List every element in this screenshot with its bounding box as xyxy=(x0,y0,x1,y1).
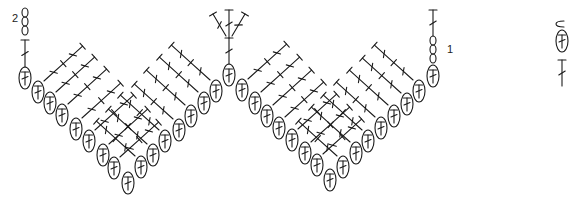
double-crochet-icon xyxy=(273,85,295,105)
dc-in-loop-icon xyxy=(273,117,285,139)
double-crochet-icon xyxy=(429,10,437,36)
double-crochet-icon xyxy=(232,12,248,36)
double-crochet-icon xyxy=(120,137,142,157)
double-crochet-icon xyxy=(309,104,331,124)
double-crochet-icon xyxy=(118,92,140,112)
double-crochet-icon xyxy=(225,10,233,38)
double-crochet-icon xyxy=(44,61,66,81)
crochet-chart xyxy=(0,0,569,199)
chain-stitch-icon xyxy=(430,54,436,63)
double-crochet-icon xyxy=(347,67,369,87)
dc-in-loop-icon xyxy=(556,30,568,52)
chain-stitch-icon xyxy=(430,36,436,45)
double-crochet-icon xyxy=(267,41,289,61)
row-label-2: 2 xyxy=(12,12,18,24)
dc-in-loop-icon xyxy=(135,156,147,178)
double-crochet-icon xyxy=(280,54,302,74)
dc-in-loop-icon xyxy=(97,144,109,166)
chain-stitch-icon xyxy=(22,8,28,17)
dc-in-loop-icon xyxy=(337,156,349,178)
double-crochet-icon xyxy=(317,91,339,111)
double-crochet-icon xyxy=(360,55,382,75)
double-crochet-icon xyxy=(21,40,29,67)
double-crochet-icon xyxy=(340,110,362,130)
dc-in-loop-icon xyxy=(311,154,323,176)
chain-stitch-icon xyxy=(22,17,28,26)
chain-stitch-icon xyxy=(556,21,564,27)
dc-in-loop-icon xyxy=(388,105,400,127)
double-crochet-icon xyxy=(285,97,307,117)
double-crochet-icon xyxy=(366,85,388,105)
dc-in-loop-icon xyxy=(70,118,82,140)
dc-in-loop-icon xyxy=(173,119,185,141)
double-crochet-icon xyxy=(176,72,198,92)
dc-in-loop-icon xyxy=(249,92,261,114)
double-crochet-icon xyxy=(261,72,283,92)
dc-in-loop-icon xyxy=(210,80,222,102)
double-crochet-icon xyxy=(292,67,314,87)
dc-in-loop-icon xyxy=(375,117,387,139)
dc-in-loop-icon xyxy=(261,105,273,127)
double-crochet-icon xyxy=(75,54,97,74)
double-crochet-icon xyxy=(372,42,394,62)
double-crochet-icon xyxy=(353,97,375,117)
dc-in-loop-icon xyxy=(185,105,197,127)
double-crochet-icon xyxy=(334,79,356,99)
dc-in-loop-icon xyxy=(44,92,56,114)
double-crochet-icon xyxy=(391,60,413,80)
double-crochet-icon xyxy=(163,85,185,105)
double-crochet-icon xyxy=(248,59,270,79)
double-crochet-icon xyxy=(106,106,128,126)
dc-in-loop-icon xyxy=(223,64,235,86)
dc-in-loop-icon xyxy=(56,104,68,126)
dc-in-loop-icon xyxy=(427,65,439,87)
double-crochet-icon xyxy=(125,124,147,144)
dc-in-loop-icon xyxy=(299,142,311,164)
dc-in-loop-icon xyxy=(108,157,120,179)
double-crochet-icon xyxy=(132,81,154,101)
dc-in-loop-icon xyxy=(83,130,95,152)
double-crochet-icon xyxy=(188,60,210,80)
double-crochet-icon xyxy=(87,66,109,86)
dc-in-loop-icon xyxy=(286,129,298,151)
double-crochet-icon xyxy=(82,98,104,118)
dc-in-loop-icon xyxy=(362,130,374,152)
double-crochet-icon xyxy=(311,122,333,142)
chain-stitch-icon xyxy=(430,45,436,54)
double-crochet-icon xyxy=(56,72,78,92)
double-crochet-icon xyxy=(101,80,123,100)
double-crochet-icon xyxy=(379,73,401,93)
double-crochet-icon xyxy=(210,12,226,36)
dc-in-loop-icon xyxy=(122,172,134,194)
row-label-1: 1 xyxy=(447,43,453,55)
double-crochet-icon xyxy=(63,43,85,63)
dc-in-loop-icon xyxy=(19,67,31,89)
dc-in-loop-icon xyxy=(413,80,425,102)
dc-in-loop-icon xyxy=(147,144,159,166)
double-crochet-icon xyxy=(304,79,326,99)
double-crochet-icon xyxy=(169,42,191,62)
dc-in-loop-icon xyxy=(159,130,171,152)
dc-in-loop-icon xyxy=(32,81,44,103)
dc-in-loop-icon xyxy=(324,169,336,191)
dc-in-loop-icon xyxy=(198,92,210,114)
dc-in-loop-icon xyxy=(236,79,248,101)
dc-in-loop-icon xyxy=(350,142,362,164)
double-crochet-icon xyxy=(558,60,566,86)
double-crochet-icon xyxy=(128,106,150,126)
double-crochet-icon xyxy=(151,99,173,119)
double-crochet-icon xyxy=(114,92,136,112)
double-crochet-icon xyxy=(225,38,233,64)
chart-canvas xyxy=(0,0,569,199)
double-crochet-icon xyxy=(157,54,179,74)
double-crochet-icon xyxy=(68,84,90,104)
dc-in-loop-icon xyxy=(401,93,413,115)
double-crochet-icon xyxy=(144,67,166,87)
chain-stitch-icon xyxy=(22,26,28,35)
